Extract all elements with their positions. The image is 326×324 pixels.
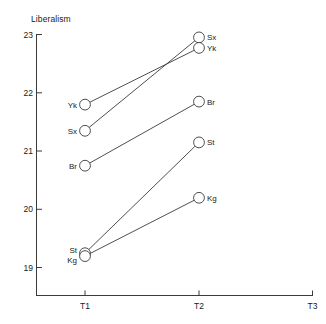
point-label-yk-t1: Yk xyxy=(68,101,78,110)
point-label-kg-t2: Kg xyxy=(207,194,217,203)
marker-st-t2 xyxy=(194,137,205,148)
y-tick-label-22: 22 xyxy=(24,88,34,98)
marker-kg-t1 xyxy=(80,251,91,262)
marker-sx-t1 xyxy=(80,125,91,136)
line-kg xyxy=(85,198,199,256)
line-yk xyxy=(85,48,199,105)
marker-yk-t1 xyxy=(80,99,91,110)
y-tick-label-21: 21 xyxy=(24,146,34,156)
point-label-sx-t2: Sx xyxy=(207,33,216,42)
point-label-sx-t1: Sx xyxy=(68,127,77,136)
marker-kg-t2 xyxy=(194,192,205,203)
marker-br-t1 xyxy=(80,160,91,171)
x-tick-label-t2: T2 xyxy=(194,301,204,311)
y-tick-label-20: 20 xyxy=(24,204,34,214)
chart-canvas: Liberalism 23 22 21 20 19 T1 T2 T3 Yk Sx… xyxy=(0,0,326,324)
y-tick-label-23: 23 xyxy=(24,30,34,40)
x-tick-label-t1: T1 xyxy=(80,301,90,311)
marker-yk-t2 xyxy=(194,43,205,54)
x-tick-label-t3: T3 xyxy=(308,301,318,311)
point-label-br-t1: Br xyxy=(69,162,77,171)
axis-group xyxy=(37,34,314,296)
point-label-st-t1: St xyxy=(69,246,77,255)
point-label-kg-t1: Kg xyxy=(67,256,77,265)
point-label-br-t2: Br xyxy=(207,98,215,107)
line-br xyxy=(85,102,199,166)
marker-sx-t2 xyxy=(194,32,205,43)
y-axis-title: Liberalism xyxy=(31,14,71,24)
marker-br-t2 xyxy=(194,96,205,107)
series-lines xyxy=(85,37,199,256)
line-st xyxy=(85,142,199,253)
y-tick-label-19: 19 xyxy=(24,263,34,273)
point-label-yk-t2: Yk xyxy=(207,44,217,53)
text-layer: Liberalism 23 22 21 20 19 T1 T2 T3 Yk Sx… xyxy=(24,14,318,311)
liberalism-line-chart: Liberalism 23 22 21 20 19 T1 T2 T3 Yk Sx… xyxy=(0,0,326,324)
line-sx xyxy=(85,37,199,130)
point-label-st-t2: St xyxy=(207,138,215,147)
